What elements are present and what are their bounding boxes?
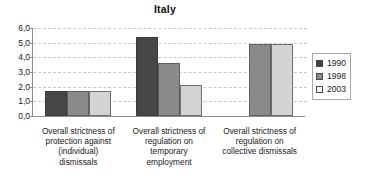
x-axis-line xyxy=(32,116,305,117)
y-tick-mark xyxy=(29,87,33,88)
category-label-line: dismissals xyxy=(30,157,127,167)
y-axis-tick-labels: 0,01,02,03,04,05,06,0 xyxy=(2,28,30,116)
category-label-line: collective dismissals xyxy=(211,146,308,156)
y-tick-mark xyxy=(29,57,33,58)
y-tick-mark xyxy=(29,43,33,44)
legend-item-2003[interactable]: 2003 xyxy=(316,83,346,96)
bar-2003-group-2[interactable] xyxy=(180,85,202,116)
category-label-line: employment xyxy=(121,157,218,167)
category-label-line: Overall strictness of xyxy=(211,126,308,136)
bar-1998-group-3[interactable] xyxy=(249,44,271,116)
legend-item-1998[interactable]: 1998 xyxy=(316,70,346,83)
legend-label: 1998 xyxy=(327,72,346,81)
bar-1990-group-1[interactable] xyxy=(45,91,67,116)
category-label-2: Overall strictness ofregulation ontempor… xyxy=(121,126,218,167)
category-label-line: regulation on xyxy=(211,136,308,146)
category-label-line: temporary xyxy=(121,146,218,156)
bar-1998-group-2[interactable] xyxy=(158,63,180,116)
category-label-line: Overall strictness of xyxy=(30,126,127,136)
legend-swatch-icon xyxy=(316,86,323,93)
bar-group xyxy=(124,28,215,116)
chart-title: Italy xyxy=(0,3,330,15)
category-label-3: Overall strictness ofregulation oncollec… xyxy=(211,126,308,157)
legend-swatch-icon xyxy=(316,73,323,80)
legend-item-1990[interactable]: 1990 xyxy=(316,57,346,70)
bar-group xyxy=(33,28,124,116)
category-label-line: protection against xyxy=(30,136,127,146)
category-label-line: regulation on xyxy=(121,136,218,146)
bars-layer xyxy=(33,28,305,116)
bar-1998-group-1[interactable] xyxy=(67,91,89,116)
bar-2003-group-1[interactable] xyxy=(89,91,111,116)
category-label-line: Overall strictness of xyxy=(121,126,218,136)
category-label-line: (individual) xyxy=(30,146,127,156)
legend-label: 2003 xyxy=(327,85,346,94)
bar-group xyxy=(214,28,305,116)
bar-1990-group-2[interactable] xyxy=(136,37,158,116)
legend: 199019982003 xyxy=(312,53,351,100)
legend-label: 1990 xyxy=(327,59,346,68)
bar-2003-group-3[interactable] xyxy=(271,44,293,116)
y-tick-mark xyxy=(29,101,33,102)
y-tick-mark xyxy=(29,116,33,117)
y-tick-mark xyxy=(29,72,33,73)
category-label-1: Overall strictness ofprotection against(… xyxy=(30,126,127,167)
x-axis-category-labels: Overall strictness ofprotection against(… xyxy=(33,126,305,186)
y-tick-mark xyxy=(29,28,33,29)
legend-swatch-icon xyxy=(316,60,323,67)
